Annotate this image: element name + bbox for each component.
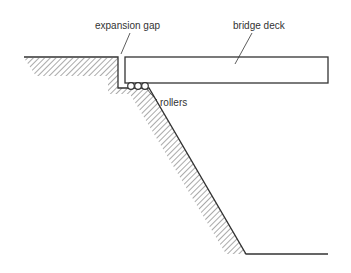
rollers <box>128 83 149 90</box>
rollers-label: rollers <box>160 97 187 108</box>
roller-3 <box>142 83 149 90</box>
roller-2 <box>135 83 142 90</box>
expansion-gap-leader <box>121 33 130 54</box>
bridge-deck <box>125 57 328 83</box>
bridge-diagram <box>0 0 351 273</box>
roller-1 <box>128 83 135 90</box>
bridge-deck-label: bridge deck <box>233 20 285 31</box>
expansion-gap-label: expansion gap <box>95 20 160 31</box>
